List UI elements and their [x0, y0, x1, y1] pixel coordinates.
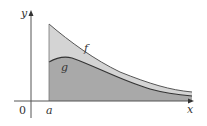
comparison-diagram: y x 0 a f g: [0, 0, 207, 126]
y-axis-label: y: [20, 7, 28, 20]
g-label: g: [61, 61, 68, 74]
origin-label: 0: [19, 104, 26, 117]
x-axis-label: x: [187, 103, 194, 116]
f-label: f: [83, 42, 90, 55]
a-label: a: [46, 104, 53, 117]
y-axis-arrow-icon: [29, 10, 34, 16]
region-under-g: [49, 57, 192, 101]
